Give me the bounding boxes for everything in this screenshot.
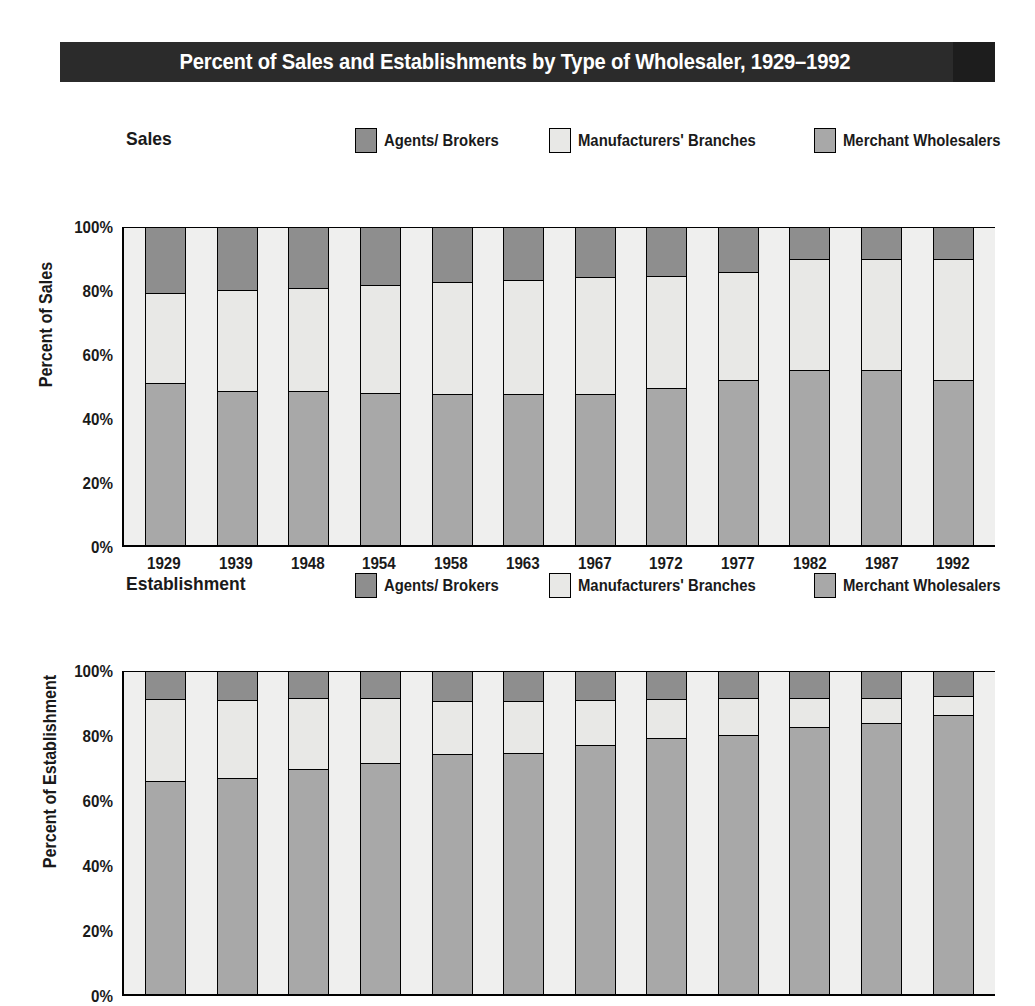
bar-segment-agents [218,228,257,291]
bar-segment-merchant [289,770,328,994]
y-axis-tick: 100% [58,218,113,237]
bar-segment-agents [862,228,901,260]
bar-segment-manufacturers [647,277,686,390]
bar-segment-agents [790,672,829,699]
stacked-bar[interactable] [145,228,186,545]
bar-segment-agents [576,228,615,278]
bar-segment-manufacturers [576,278,615,394]
bar-slot [273,228,345,545]
bar-segment-merchant [862,371,901,545]
bar-segment-agents [289,228,328,289]
y-axis-tick: 80% [58,727,113,746]
legend-sales: Agents/ Brokers Manufacturers' Branches … [355,128,1018,153]
legend-label-merchant: Merchant Wholesalers [843,576,1001,595]
legend-item-merchant: Merchant Wholesalers [814,573,1018,598]
legend-swatch-manufacturers-icon [549,128,571,153]
chart-sales: Sales Agents/ Brokers Manufacturers' Bra… [0,120,1035,550]
bar-segment-agents [719,672,758,699]
bar-segment-manufacturers [218,291,257,392]
bar-segment-manufacturers [289,699,328,770]
bar-segment-merchant [719,736,758,994]
legend-label-manufacturers: Manufacturers' Branches [578,131,756,150]
chart-sales-subtitle: Sales [126,128,172,150]
stacked-bar[interactable] [360,228,401,545]
bar-segment-merchant [361,764,400,994]
bar-slot [774,228,846,545]
bar-segment-manufacturers [433,702,472,756]
bar-slot [202,228,274,545]
bar-segment-agents [934,672,973,697]
stacked-bar[interactable] [718,672,759,994]
chart-establishment: Establishment Agents/ Brokers Manufactur… [0,565,1035,959]
stacked-bar[interactable] [646,672,687,994]
stacked-bar[interactable] [432,672,473,994]
bar-slot [345,672,417,994]
legend-swatch-merchant-icon [814,128,836,153]
stacked-bar[interactable] [217,672,258,994]
bar-segment-agents [433,228,472,283]
legend-label-agents: Agents/ Brokers [384,576,499,595]
bar-segment-agents [647,672,686,700]
y-axis-tick: 0% [58,538,113,557]
stacked-bar[interactable] [718,228,759,545]
stacked-bar[interactable] [789,228,830,545]
bar-segment-manufacturers [934,697,973,716]
stacked-bar[interactable] [575,228,616,545]
bar-segment-merchant [719,381,758,545]
bar-segment-manufacturers [218,701,257,779]
stacked-bar[interactable] [288,672,329,994]
legend-item-agents: Agents/ Brokers [355,128,511,153]
stacked-bar[interactable] [646,228,687,545]
y-axis-tick: 40% [58,857,113,876]
bar-segment-merchant [504,754,543,994]
stacked-bar[interactable] [789,672,830,994]
legend-label-merchant: Merchant Wholesalers [843,131,1001,150]
stacked-bar[interactable] [360,672,401,994]
y-axis-title-sales: Percent of Sales [36,242,57,408]
bar-segment-manufacturers [719,273,758,381]
bar-segment-manufacturers [146,294,185,384]
stacked-bar[interactable] [503,672,544,994]
stacked-bar[interactable] [288,228,329,545]
y-axis-tick: 20% [58,922,113,941]
bar-segment-manufacturers [504,702,543,754]
stacked-bar[interactable] [432,228,473,545]
bar-group-establishment [124,672,995,994]
stacked-bar[interactable] [861,228,902,545]
bar-segment-agents [361,672,400,699]
legend-item-merchant: Merchant Wholesalers [814,128,1018,153]
bar-slot [703,228,775,545]
stacked-bar[interactable] [217,228,258,545]
stacked-bar[interactable] [861,672,902,994]
bar-segment-agents [790,228,829,260]
bar-segment-manufacturers [934,260,973,381]
legend-item-manufacturers: Manufacturers' Branches [549,573,775,598]
bar-slot [130,228,202,545]
bar-slot [416,228,488,545]
bar-segment-agents [289,672,328,699]
bar-segment-merchant [576,746,615,994]
stacked-bar[interactable] [503,228,544,545]
bar-segment-agents [862,672,901,699]
bar-segment-agents [433,672,472,702]
bar-slot [631,228,703,545]
stacked-bar[interactable] [933,672,974,994]
bar-slot [774,672,846,994]
stacked-bar[interactable] [933,228,974,545]
bar-slot [917,228,989,545]
bar-slot [846,672,918,994]
bar-segment-merchant [790,728,829,994]
chart-establishment-subtitle: Establishment [126,573,245,595]
y-axis-tick: 60% [58,346,113,365]
y-axis-tick: 40% [58,410,113,429]
chart-sales-header: Sales Agents/ Brokers Manufacturers' Bra… [0,120,1035,164]
bar-segment-merchant [647,739,686,994]
title-band: Percent of Sales and Establishments by T… [60,42,995,82]
stacked-bar[interactable] [575,672,616,994]
bar-segment-manufacturers [862,699,901,724]
chart-establishment-header: Establishment Agents/ Brokers Manufactur… [0,565,1035,609]
bar-slot [559,672,631,994]
stacked-bar[interactable] [145,672,186,994]
bar-segment-merchant [218,779,257,994]
legend-swatch-merchant-icon [814,573,836,598]
